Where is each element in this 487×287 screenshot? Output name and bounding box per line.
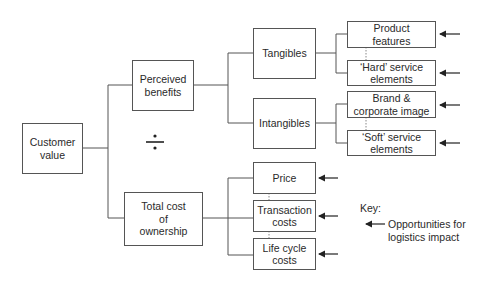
hard-service-elements-box: ‘Hard’ service elements <box>347 60 436 86</box>
tangibles-box: Tangibles <box>253 28 316 79</box>
brand-corporate-image-box: Brand & corporate image <box>347 91 436 118</box>
key-arrow-meaning: Opportunities for logistics impact <box>388 218 466 243</box>
intangibles-box: Intangibles <box>253 98 316 149</box>
total-cost-of-ownership-box: Total cost of ownership <box>124 192 203 246</box>
divide-icon <box>145 132 165 152</box>
price-box: Price <box>253 162 316 194</box>
soft-service-elements-box: ‘Soft’ service elements <box>347 130 436 156</box>
customer-value-box: Customer value <box>22 123 83 174</box>
transaction-costs-box: Transaction costs <box>253 200 316 232</box>
product-features-box: Product features <box>347 21 436 48</box>
life-cycle-costs-box: Life cycle costs <box>253 238 316 270</box>
perceived-benefits-box: Perceived benefits <box>132 60 194 111</box>
key-title: Key: <box>360 202 381 215</box>
